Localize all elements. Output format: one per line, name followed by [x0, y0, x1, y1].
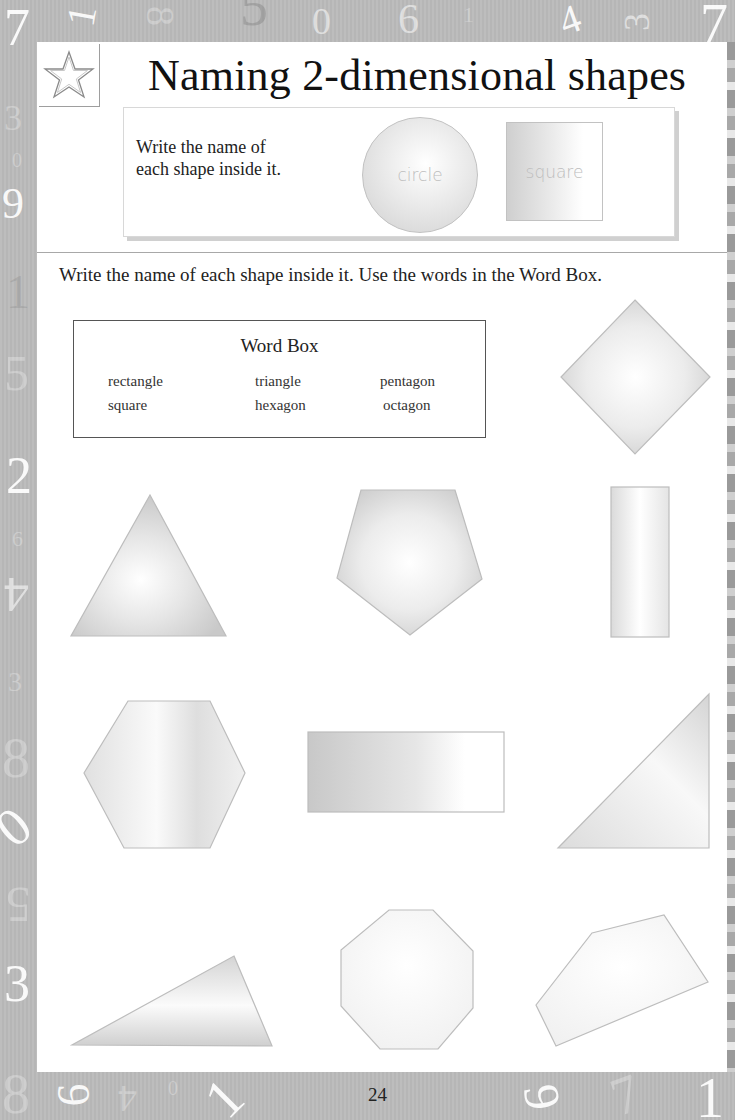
shapes-canvas: [0, 0, 735, 1120]
shape-irregular-pentagon[interactable]: [536, 915, 708, 1046]
shape-hexagon[interactable]: [84, 701, 245, 848]
shape-diamond-square[interactable]: [561, 300, 710, 454]
shape-octagon[interactable]: [341, 910, 473, 1049]
shape-tall-rectangle[interactable]: [611, 487, 669, 637]
shape-wide-rectangle[interactable]: [308, 732, 504, 812]
shape-right-triangle[interactable]: [558, 694, 709, 848]
shape-equilateral-triangle[interactable]: [71, 495, 226, 636]
shape-pentagon[interactable]: [337, 490, 482, 635]
shape-scalene-triangle[interactable]: [72, 956, 272, 1046]
page-number: 24: [368, 1084, 387, 1106]
